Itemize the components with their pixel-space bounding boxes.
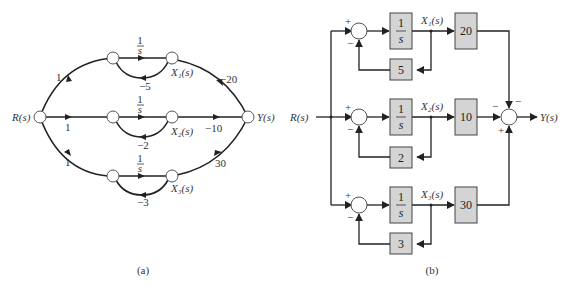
out-sign-2: − — [492, 100, 498, 112]
summing-junction-1 — [351, 23, 367, 39]
feedback-gain-3: 3 — [398, 237, 404, 251]
feedback-gain-3: −3 — [137, 196, 149, 208]
feedback-gain-1: −5 — [139, 80, 151, 92]
sum-plus-1: + — [345, 15, 351, 27]
feedback-wire — [359, 214, 390, 244]
diagram-canvas: R(s) Y(s) 1 1 s X₁(s) −5 −20 1 1 s X₂(s)… — [0, 0, 570, 288]
output-summing-junction — [501, 109, 517, 125]
sfg-input-node — [34, 111, 46, 123]
feedback-wire — [417, 31, 431, 70]
output-label: Y(s) — [540, 111, 558, 124]
sfg-node-x1 — [166, 52, 178, 64]
output-wire — [477, 31, 509, 108]
bd-branch-3: + − 1 s X₃(s) 30 3 — [331, 126, 509, 254]
summing-junction-3 — [351, 197, 367, 213]
sum-plus-2: + — [345, 101, 351, 113]
integrator-den-1: s — [399, 32, 404, 46]
out-sign-3: + — [498, 124, 504, 136]
output-gain-2: −10 — [205, 122, 223, 134]
arrow-icon — [213, 114, 220, 120]
sfg-output-node — [242, 111, 254, 123]
feedback-wire — [417, 117, 431, 157]
input-label: R(s) — [289, 111, 309, 124]
sum-minus-1: − — [347, 37, 353, 49]
state-label-1: X₁(s) — [170, 66, 193, 79]
edge-feedback-3 — [116, 180, 168, 195]
output-gain-1: 20 — [460, 24, 472, 38]
arrow-icon — [64, 149, 71, 156]
input-gain-1: 1 — [56, 71, 62, 83]
sum-plus-3: + — [345, 189, 351, 201]
input-label: R(s) — [11, 111, 31, 124]
sfg-node — [107, 170, 119, 182]
sfg-node — [107, 111, 119, 123]
state-label-3: X₃(s) — [420, 188, 443, 201]
caption-b: (b) — [426, 264, 439, 277]
integrator-den-2: s — [138, 103, 142, 115]
feedback-wire — [359, 40, 390, 70]
sfg-node-x3 — [166, 170, 178, 182]
integrator-den-2: s — [399, 118, 404, 132]
sum-minus-3: − — [347, 211, 353, 223]
arrow-icon — [65, 114, 72, 120]
integrator-num-3: 1 — [398, 190, 404, 204]
state-label-2: X₂(s) — [170, 125, 193, 138]
edge-feedback-1 — [116, 62, 168, 78]
integrator-den-3: s — [138, 162, 142, 174]
signal-flow-graph: R(s) Y(s) 1 1 s X₁(s) −5 −20 1 1 s X₂(s)… — [11, 34, 275, 277]
bd-branch-1: + − 1 s X₁(s) 20 5 — [331, 13, 509, 108]
block-diagram: R(s) + − 1 s X₁(s) 20 5 — [289, 13, 558, 277]
integrator-num-1: 1 — [398, 16, 404, 30]
summing-junction-2 — [351, 109, 367, 125]
output-gain-1: −20 — [220, 73, 238, 85]
feedback-gain-2: 2 — [398, 151, 404, 165]
caption-a: (a) — [137, 264, 150, 277]
edge-input-1 — [40, 58, 113, 117]
state-label-1: X₁(s) — [420, 14, 443, 27]
output-gain-2: 10 — [460, 110, 472, 124]
output-label: Y(s) — [257, 111, 275, 124]
integrator-den-3: s — [399, 206, 404, 220]
bd-branch-2: + − 1 s X₂(s) 10 2 — [331, 99, 500, 168]
feedback-wire — [359, 126, 390, 157]
sfg-node — [107, 52, 119, 64]
output-wire — [477, 126, 509, 205]
feedback-gain-2: −2 — [137, 139, 149, 151]
feedback-wire — [417, 205, 431, 244]
feedback-gain-1: 5 — [398, 63, 404, 77]
sum-minus-2: − — [347, 123, 353, 135]
output-gain-3: 30 — [460, 198, 472, 212]
integrator-den-1: s — [138, 44, 142, 56]
edge-input-3 — [40, 117, 108, 176]
output-gain-3: 30 — [215, 157, 227, 169]
state-label-3: X₃(s) — [170, 182, 193, 195]
input-gain-2: 1 — [65, 121, 71, 133]
out-sign-1: − — [515, 95, 521, 107]
state-label-2: X₂(s) — [420, 100, 443, 113]
input-gain-3: 1 — [65, 156, 71, 168]
sfg-node-x2 — [166, 111, 178, 123]
integrator-num-2: 1 — [398, 102, 404, 116]
edge-feedback-2 — [116, 121, 168, 137]
